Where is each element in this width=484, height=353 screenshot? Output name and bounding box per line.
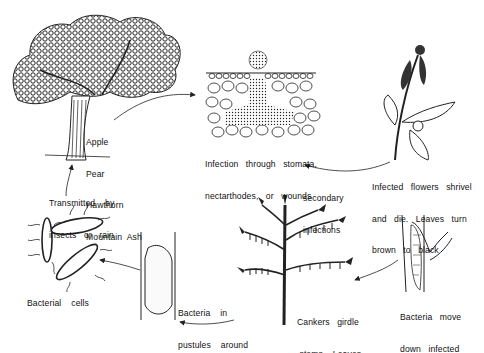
canker-stem-icon [141, 232, 175, 320]
flowers-line-1: Infected flowers shrivel [372, 182, 472, 193]
infection-line-2: nectarthodes, or wounds [205, 191, 317, 202]
transmission-line-2: insects or rain [49, 230, 114, 241]
secondary-line-2: infections [303, 225, 344, 236]
pustules-line-2: pustules around [178, 340, 248, 351]
flowers-line-2: and die. Leaves turn [372, 214, 472, 225]
pustules-line-1: Bacteria in [178, 308, 248, 319]
label-pustules: Bacteria in pustules around canker margi… [178, 287, 248, 353]
host-apple: Apple [86, 137, 142, 148]
flowers-line-3: brown to black [372, 245, 472, 256]
transmission-line-1: Transmitted by [49, 198, 114, 209]
label-bacterial-cells: Bacterial cells [27, 277, 89, 319]
label-infection: Infection through stomata, nectarthodes,… [205, 138, 317, 212]
cells-line-1: Bacterial cells [27, 298, 89, 309]
secondary-line-1: secondary [303, 193, 344, 204]
infection-line-1: Infection through stomata, [205, 159, 317, 170]
leaf-tissue-icon [206, 51, 320, 137]
cankers-line-1: Cankers girdle [297, 317, 368, 328]
label-secondary-infections: secondary infections [303, 172, 344, 246]
label-flowers: Infected flowers shrivel and die. Leaves… [372, 161, 472, 266]
cankers-line-2: stems. Leaves [297, 349, 368, 353]
twigs-line-2: down infected [400, 344, 468, 353]
flowering-shoot-icon [384, 45, 455, 160]
twigs-line-1: Bacteria move [400, 312, 468, 323]
label-twigs: Bacteria move down infected twigs and in… [400, 291, 468, 353]
label-transmission: Transmitted by insects or rain [49, 177, 114, 251]
label-cankers: Cankers girdle stems. Leaves remain atta… [297, 296, 368, 353]
